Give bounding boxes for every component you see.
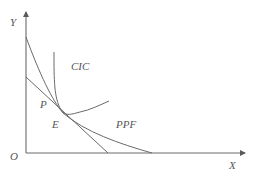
point-p-label: P [40, 99, 47, 110]
origin-label: O [10, 151, 18, 162]
ppf-label: PPF [116, 119, 136, 130]
x-axis-label: X [229, 160, 236, 171]
y-axis-label: Y [10, 17, 16, 28]
price-line [26, 77, 108, 153]
point-e-label: E [52, 119, 59, 130]
cic-label: CIC [71, 61, 89, 72]
ppf-cic-diagram [0, 0, 263, 178]
